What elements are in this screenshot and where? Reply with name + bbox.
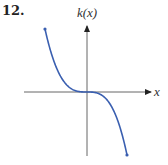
- function-graph: k(x) x: [0, 0, 168, 165]
- curve-endpoint-bottom: [125, 153, 128, 156]
- curve-endpoint-top: [43, 27, 46, 30]
- y-axis-label: k(x): [77, 5, 97, 20]
- x-axis-label: x: [153, 84, 160, 99]
